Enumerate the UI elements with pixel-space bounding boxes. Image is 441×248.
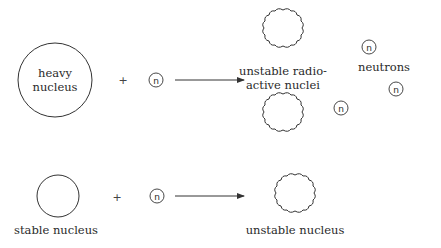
neutron-label: n (338, 104, 344, 114)
unstable-nucleus-wavy-lower (263, 93, 304, 132)
unstable-nuclei-label-line2: active nuclei (246, 78, 320, 92)
unstable-nuclei-label-line1: unstable radio- (239, 64, 327, 78)
stable-nucleus-circle (37, 175, 79, 217)
heavy-nucleus-label-line2: nucleus (32, 80, 77, 94)
neutron-label: n (393, 85, 399, 95)
nuclear-reactions-diagram: heavy nucleus + n unstable radio- active… (0, 0, 441, 248)
unstable-nucleus-wavy-upper (263, 9, 304, 48)
heavy-nucleus-label-line1: heavy (38, 66, 73, 80)
fission-reaction: heavy nucleus + n unstable radio- active… (18, 9, 410, 132)
capture-reaction: stable nucleus + n unstable nucleus (14, 174, 344, 237)
neutron-label: n (154, 192, 160, 202)
plus-sign: + (112, 191, 121, 204)
neutron-label: n (366, 43, 372, 53)
stable-nucleus-label: stable nucleus (14, 223, 98, 237)
neutrons-label: neutrons (358, 60, 410, 74)
neutron-label: n (153, 76, 159, 86)
unstable-nucleus-wavy (275, 174, 316, 213)
plus-sign: + (118, 74, 127, 87)
unstable-nucleus-label: unstable nucleus (246, 223, 345, 237)
